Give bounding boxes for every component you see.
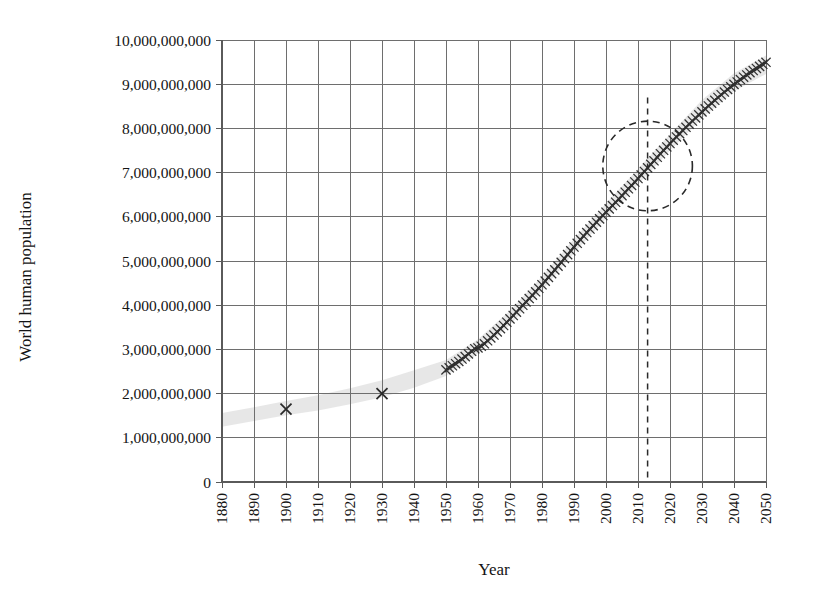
x-tick-label: 1980 [533,493,550,524]
x-tick-label: 1970 [501,493,518,524]
x-axis-title: Year [478,560,510,579]
x-tick-label: 2040 [725,493,742,524]
y-tick-label: 0 [203,474,211,491]
y-tick-label: 4,000,000,000 [122,297,211,314]
x-tick-label: 1910 [309,493,326,524]
x-tick-label: 1950 [437,493,454,524]
y-tick-label: 7,000,000,000 [122,164,211,181]
x-tick-label: 2030 [693,493,710,524]
x-tick-label: 1920 [341,493,358,524]
y-axis-title: World human population [16,192,35,362]
chart-canvas: 10,000,000,0009,000,000,0008,000,000,000… [0,0,815,605]
y-tick-label: 1,000,000,000 [122,429,211,446]
x-tick-label: 2010 [629,493,646,524]
population-growth-chart: 10,000,000,0009,000,000,0008,000,000,000… [0,0,815,605]
y-tick-label: 5,000,000,000 [122,253,211,270]
y-tick-label: 10,000,000,000 [114,32,211,49]
y-tick-label: 3,000,000,000 [122,341,211,358]
x-tick-label: 1900 [277,493,294,524]
x-tick-label: 2050 [757,493,774,524]
y-tick-label: 8,000,000,000 [122,120,211,137]
x-tick-label: 1940 [405,493,422,524]
y-tick-label: 6,000,000,000 [122,208,211,225]
x-tick-label: 1930 [373,493,390,524]
x-tick-label: 1990 [565,493,582,524]
x-tick-label: 2020 [661,493,678,524]
x-tick-label: 1960 [469,493,486,524]
x-tick-label: 2000 [597,493,614,524]
x-tick-label: 1880 [213,493,230,524]
y-tick-label: 2,000,000,000 [122,385,211,402]
x-tick-label: 1890 [245,493,262,524]
y-tick-label: 9,000,000,000 [122,76,211,93]
